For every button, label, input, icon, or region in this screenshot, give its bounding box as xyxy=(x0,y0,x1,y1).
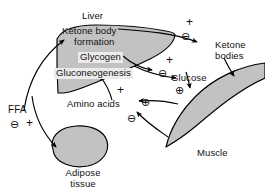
symbol-plus-gluconeogenesis: + xyxy=(117,85,124,95)
adipose-label-line2: tissue xyxy=(57,179,109,190)
ketone-bodies-label-line1: Ketone xyxy=(215,40,246,51)
ketone-bodies-label-line2: bodies xyxy=(215,51,244,62)
ketone-body-formation-label-line2: formation xyxy=(74,37,115,48)
symbol-minus-ffa-release: ⊖ xyxy=(10,119,19,129)
symbol-plus-ketone-output: + xyxy=(186,17,193,27)
liver-label: Liver xyxy=(82,11,103,22)
arrow-liver-to-glucose-branch xyxy=(134,66,176,78)
pathway-graphics xyxy=(0,0,265,196)
adipose-shape xyxy=(52,126,108,167)
glycogen-label: Glycogen xyxy=(78,52,123,63)
symbol-minus-ketone-output: ⊖ xyxy=(181,31,190,41)
symbol-plus-glucose-uptake: ⊕ xyxy=(175,85,184,95)
adipose-label-line1: Adipose xyxy=(57,168,109,179)
symbol-plus-amino-acid-release: ⊕ xyxy=(141,97,150,107)
diagram-canvas: Liver Ketone body formation Glycogen Glu… xyxy=(0,0,265,196)
arrow-muscle-inhibit xyxy=(137,112,168,137)
ketone-body-formation-label-line1: Ketone body xyxy=(62,26,116,37)
amino-acids-label: Amino acids xyxy=(67,99,120,110)
symbol-minus-muscle-uptake: ⊖ xyxy=(127,113,136,123)
gluconeogenesis-label: Gluconeogenesis xyxy=(54,68,133,79)
ffa-label: FFA xyxy=(8,105,27,116)
muscle-label: Muscle xyxy=(197,148,228,159)
symbol-plus-ffa-release: + xyxy=(26,118,33,128)
symbol-plus-glucose-output: + xyxy=(166,55,173,65)
symbol-minus-glucose-output: ⊖ xyxy=(158,68,167,78)
glucose-label: Glucose xyxy=(171,73,207,84)
